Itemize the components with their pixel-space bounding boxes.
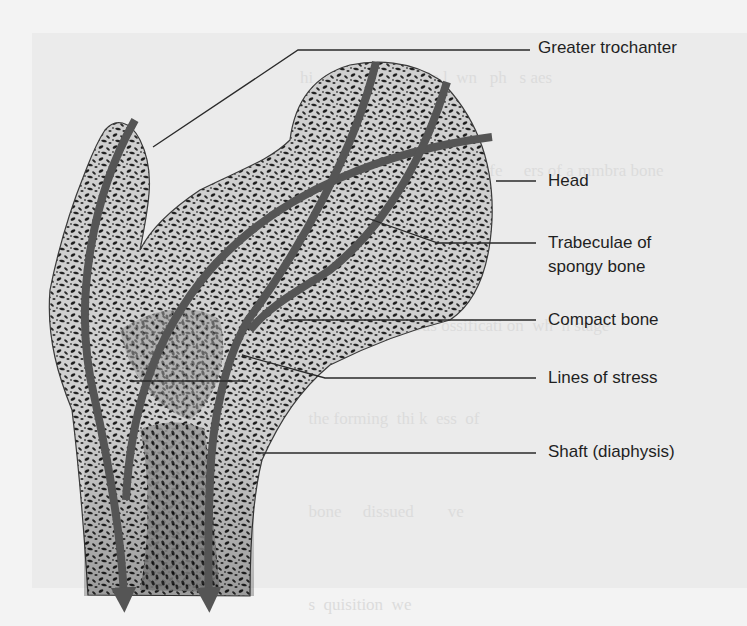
label-compact-bone: Compact bone xyxy=(548,309,659,331)
label-greater-trochanter: Greater trochanter xyxy=(538,37,677,59)
figure-page: hi red/lak sto me ie l wn ph s aes of sp… xyxy=(0,0,747,626)
shaft-shading xyxy=(84,420,254,596)
label-lines-of-stress: Lines of stress xyxy=(548,367,658,389)
label-trabeculae-line2: spongy bone xyxy=(548,256,645,278)
label-head: Head xyxy=(548,170,589,192)
label-trabeculae-line1: Trabeculae of xyxy=(548,232,651,254)
label-shaft: Shaft (diaphysis) xyxy=(548,441,675,463)
